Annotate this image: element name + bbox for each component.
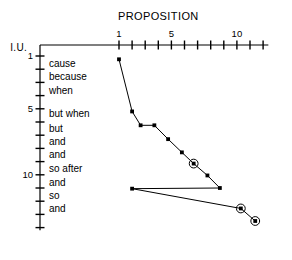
data-point-marker xyxy=(130,187,134,191)
chart-title: PROPOSITION xyxy=(118,10,199,22)
y-category-label: but when xyxy=(49,108,90,119)
y-category-label: cause xyxy=(49,58,76,69)
y-tick-label: 1 xyxy=(28,50,33,61)
x-tick-label: 1 xyxy=(116,28,121,39)
y-category-label: because xyxy=(49,71,87,82)
data-point-marker xyxy=(218,186,222,190)
data-point-marker xyxy=(130,110,134,114)
y-axis: 1510 xyxy=(22,45,44,230)
data-point-marker xyxy=(166,137,170,141)
chart-container: PROPOSITION 1510 1510 I.U. causebecausew… xyxy=(0,0,292,260)
x-axis: 1510 xyxy=(40,28,268,50)
data-point-marker xyxy=(152,123,156,127)
y-category-label: but xyxy=(49,123,63,134)
x-tick-label: 5 xyxy=(169,28,174,39)
data-point-marker xyxy=(239,207,243,211)
y-category-label: so xyxy=(49,190,60,201)
y-axis-label: I.U. xyxy=(10,42,27,53)
data-points xyxy=(117,57,260,225)
y-category-label: so after xyxy=(49,163,83,174)
data-point-marker xyxy=(192,162,196,166)
data-point-marker xyxy=(139,123,143,127)
chart-title-group: PROPOSITION xyxy=(118,10,199,22)
y-category-label: and xyxy=(49,136,66,147)
y-tick-label: 5 xyxy=(28,103,33,114)
y-category-label: and xyxy=(49,203,66,214)
data-point-marker xyxy=(180,150,184,154)
connector-line xyxy=(132,188,220,189)
x-tick-label: 10 xyxy=(232,28,243,39)
y-axis-name: I.U. xyxy=(10,42,27,53)
y-tick-label: 10 xyxy=(22,169,33,180)
y-category-label: and xyxy=(49,177,66,188)
series-line xyxy=(132,189,255,221)
y-category-label: when xyxy=(48,85,73,96)
data-lines xyxy=(119,59,255,221)
series-line xyxy=(119,59,220,188)
data-point-marker xyxy=(117,57,121,61)
data-point-marker xyxy=(206,174,210,178)
data-point-marker xyxy=(253,219,257,223)
proposition-chart: PROPOSITION 1510 1510 I.U. causebecausew… xyxy=(0,0,292,260)
y-category-labels: causebecausewhenbut whenbutandandso afte… xyxy=(48,58,90,214)
y-category-label: and xyxy=(49,149,66,160)
